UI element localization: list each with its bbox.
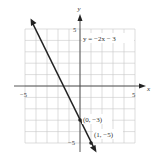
point-label-1-neg5: (1, −5) [94,131,114,139]
x-tick-label-min: −5 [20,91,27,98]
y-axis-label: y [77,5,82,13]
x-axis-label: x [146,85,151,93]
y-tick-label-max: 5 [73,26,76,33]
x-tick-label-max: 5 [132,91,135,98]
equation-label: y = −2x − 3 [83,35,116,43]
y-axis-arrow-icon [78,14,83,21]
line-arrow-bottom-icon [90,145,97,153]
point-1-neg5 [89,141,93,145]
point-label-0-neg3: (0, −3) [83,116,103,124]
point-0-neg3 [78,118,82,122]
y-tick-label-min: −5 [68,139,75,146]
x-axis-arrow-icon [139,84,146,89]
graph: x y −5 5 5 −5 y = −2x − 3 (0, −3) (1, −5… [0,0,152,160]
